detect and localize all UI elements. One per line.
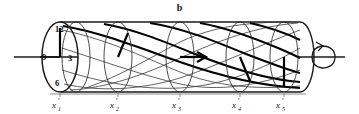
svg-text:x: x bbox=[275, 100, 280, 110]
helix-thick-secondary bbox=[104, 24, 300, 82]
svg-text:′: ′ bbox=[58, 97, 60, 106]
svg-text:x: x bbox=[171, 100, 176, 110]
tick-label-1: x ′ 1 bbox=[51, 97, 61, 112]
helix-thin-3 bbox=[62, 48, 300, 88]
svg-text:2: 2 bbox=[116, 106, 119, 112]
helix-thin-2 bbox=[62, 48, 300, 88]
section-hand-4 bbox=[240, 57, 250, 81]
svg-text:x: x bbox=[51, 100, 56, 110]
figure-root: b 12 3 6 9 bbox=[0, 0, 359, 114]
svg-text:1: 1 bbox=[58, 106, 61, 112]
clock-number-6: 6 bbox=[55, 78, 59, 88]
tick-label-2: x ′ 2 bbox=[109, 97, 119, 112]
tick-label-3: x ′ 3 bbox=[171, 97, 181, 112]
svg-text:′: ′ bbox=[238, 97, 240, 106]
svg-text:3: 3 bbox=[177, 106, 181, 112]
clock-number-3: 3 bbox=[68, 53, 72, 63]
section-hand-2 bbox=[118, 33, 128, 57]
svg-text:5: 5 bbox=[282, 106, 285, 112]
svg-text:x: x bbox=[231, 100, 236, 110]
cylinder-diagram-svg: 12 3 6 9 x ′ 1 x ′ 2 bbox=[0, 0, 359, 114]
tick-label-4: x ′ 4 bbox=[231, 97, 241, 112]
svg-text:x: x bbox=[109, 100, 114, 110]
svg-text:4: 4 bbox=[238, 106, 241, 112]
helix-thin-1 bbox=[62, 30, 300, 87]
svg-text:′: ′ bbox=[178, 97, 180, 106]
tick-label-5: x ′ 5 bbox=[275, 97, 285, 112]
svg-text:′: ′ bbox=[116, 97, 118, 106]
svg-text:′: ′ bbox=[282, 97, 284, 106]
